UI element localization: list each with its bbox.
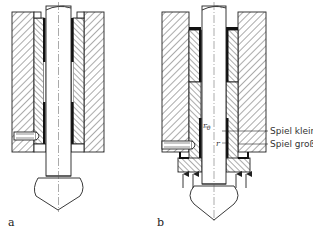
housing-left [12,12,34,152]
spiel-gross-label: Spiel groß [270,139,313,149]
diagram-canvas: a [0,0,313,234]
flange-right [226,158,250,172]
panel-b [162,2,268,222]
bushing-right [73,18,84,144]
housing-right [84,12,104,152]
panel-label-b: b [157,216,164,229]
set-screw-a [14,132,36,140]
bushing-left [34,18,44,144]
panel-label-a: a [8,216,15,229]
set-screw-b [162,141,192,149]
housing-left-b [162,12,189,152]
panel-a [12,2,104,212]
spiel-klein-label: Spiel klein [270,126,313,136]
flange-left [178,158,202,172]
